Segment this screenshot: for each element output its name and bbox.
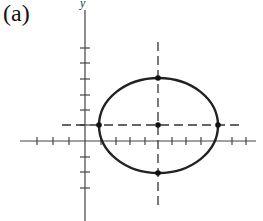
bottom-vertex-point [155,170,161,176]
axes [20,10,256,221]
center-point [155,122,161,128]
right-vertex-point [215,122,221,128]
ellipse-diagram [0,0,263,221]
left-vertex-point [96,122,102,128]
top-vertex-point [155,75,161,81]
tick-marks [37,48,246,188]
